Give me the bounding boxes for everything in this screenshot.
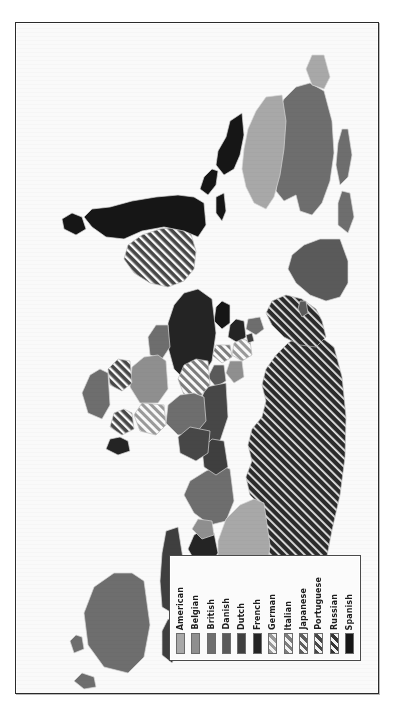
legend-label: French [253,599,262,630]
legend-swatch [191,633,200,654]
legend-label: Danish [222,598,231,630]
legend-label: British [207,599,216,630]
legend-swatch [207,633,216,654]
legend-entry-belgian[interactable]: Belgian [191,561,200,654]
legend-entry-danish[interactable]: Danish [222,561,231,654]
map-legend: AmericanBelgianBritishDanishDutchFrenchG… [169,555,361,661]
legend-label: American [176,587,185,630]
legend-swatch [268,633,277,654]
legend-entry-british[interactable]: British [207,561,216,654]
legend-swatch [222,633,231,654]
legend-swatch [237,633,246,654]
legend-swatch [345,633,354,654]
legend-entry-portuguese[interactable]: Portuguese [314,561,323,654]
legend-swatch [314,633,323,654]
legend-label: Dutch [237,603,246,630]
legend-swatch [330,633,339,654]
legend-swatch [253,633,262,654]
legend-label: Portuguese [314,577,323,630]
legend-entry-italian[interactable]: Italian [284,561,293,654]
legend-label: Italian [284,601,293,630]
legend-entry-french[interactable]: French [253,561,262,654]
legend-entry-american[interactable]: American [176,561,185,654]
legend-entry-spanish[interactable]: Spanish [345,561,354,654]
legend-label: Belgian [191,595,200,630]
legend-label: Japanese [299,588,308,630]
legend-label: Spanish [345,594,354,630]
legend-entry-german[interactable]: German [268,561,277,654]
legend-entry-japanese[interactable]: Japanese [299,561,308,654]
legend-swatch [284,633,293,654]
legend-entry-dutch[interactable]: Dutch [237,561,246,654]
legend-entry-russian[interactable]: Russian [330,561,339,654]
legend-label: Russian [330,594,339,630]
legend-swatch [176,633,185,654]
legend-swatch [299,633,308,654]
legend-label: German [268,594,277,630]
